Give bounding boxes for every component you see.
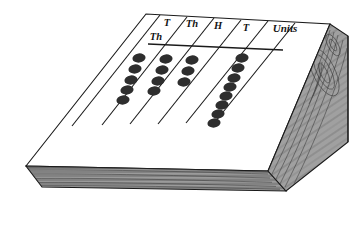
label-ten-thousands-bottom: Th bbox=[150, 31, 162, 42]
label-thousands: Th bbox=[186, 18, 198, 29]
counting-board-figure: T Th Th H T Units bbox=[0, 0, 356, 232]
label-tens: T bbox=[243, 22, 250, 33]
counting-board-illustration: T Th Th H T Units bbox=[0, 0, 356, 232]
label-ten-thousands-top: T bbox=[164, 17, 171, 28]
label-units: Units bbox=[273, 22, 297, 34]
label-hundreds: H bbox=[213, 20, 223, 31]
